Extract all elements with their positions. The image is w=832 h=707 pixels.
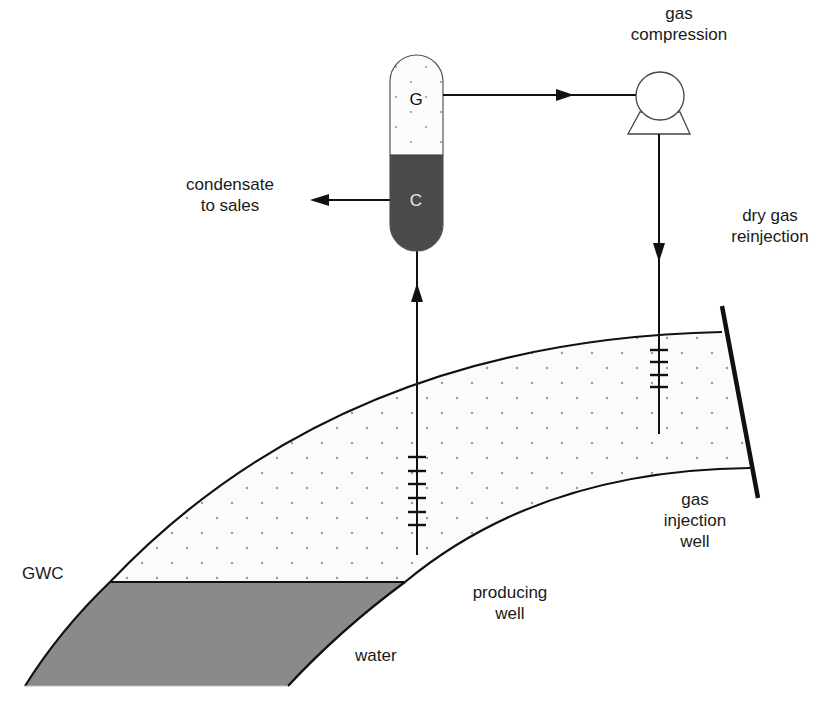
water-zone	[25, 582, 405, 686]
dry-gas-reinjection-label: dry gas reinjection	[710, 205, 830, 247]
separator-gas-label: G	[406, 90, 426, 110]
separator-vessel	[390, 55, 443, 251]
arrow-up-icon	[411, 283, 423, 302]
condensate-to-sales-label: condensate to sales	[160, 174, 300, 216]
gas-injection-well-label: gas injection well	[640, 489, 750, 552]
gwc-label: GWC	[22, 563, 82, 584]
separator-condensate-label: C	[406, 191, 426, 211]
arrow-left-icon	[310, 194, 329, 206]
diagram-canvas: G C gas compression condensate to sales …	[0, 0, 832, 707]
water-label: water	[355, 645, 415, 666]
gas-compression-label: gas compression	[604, 3, 754, 45]
producing-well-label: producing well	[450, 582, 570, 624]
arrow-right-icon	[556, 89, 574, 101]
arrow-down-icon	[653, 243, 665, 262]
compressor-icon	[628, 72, 690, 134]
